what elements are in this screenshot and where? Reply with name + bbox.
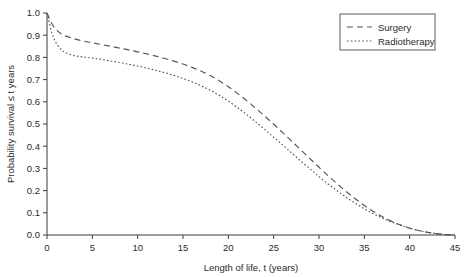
- x-tick-label: 15: [178, 242, 189, 253]
- x-tick-label: 35: [359, 242, 370, 253]
- chart-svg: 051015202530354045 0.00.10.20.30.40.50.6…: [0, 0, 469, 277]
- legend-label-surgery: Surgery: [378, 22, 412, 33]
- survival-curve-figure: 051015202530354045 0.00.10.20.30.40.50.6…: [0, 0, 469, 277]
- y-tick-group: 0.00.10.20.30.40.50.60.70.80.91.0: [27, 7, 47, 240]
- x-tick-group: 051015202530354045: [44, 235, 460, 253]
- y-tick-label: 0.4: [27, 141, 40, 152]
- x-tick-label: 0: [44, 242, 49, 253]
- y-tick-label: 0.3: [27, 163, 40, 174]
- x-tick-label: 25: [268, 242, 279, 253]
- y-tick-label: 0.6: [27, 96, 40, 107]
- y-tick-label: 0.1: [27, 207, 40, 218]
- y-tick-label: 0.2: [27, 185, 40, 196]
- y-tick-label: 0.5: [27, 118, 40, 129]
- x-axis-title: Length of life, t (years): [204, 262, 299, 273]
- y-tick-label: 0.8: [27, 52, 40, 63]
- y-tick-label: 1.0: [27, 7, 40, 18]
- x-tick-label: 30: [314, 242, 325, 253]
- y-tick-label: 0.0: [27, 229, 40, 240]
- y-tick-label: 0.9: [27, 30, 40, 41]
- x-tick-label: 20: [223, 242, 234, 253]
- y-tick-label: 0.7: [27, 74, 40, 85]
- x-tick-label: 10: [132, 242, 143, 253]
- x-tick-label: 45: [450, 242, 461, 253]
- x-tick-label: 5: [90, 242, 95, 253]
- y-axis-title: Probability survival ≤ t years: [5, 65, 16, 183]
- legend: Surgery Radiotherapy: [340, 14, 435, 50]
- legend-label-radiotherapy: Radiotherapy: [378, 36, 435, 47]
- x-tick-label: 40: [404, 242, 415, 253]
